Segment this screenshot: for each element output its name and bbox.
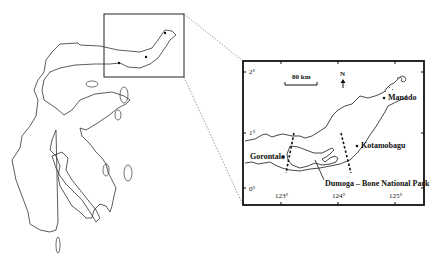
north-label: N <box>340 71 345 78</box>
connector-line <box>184 77 243 205</box>
sulawesi-outline <box>12 30 176 232</box>
town-dot-kotamobagu <box>356 145 359 148</box>
lat-tick-2: 2° <box>249 69 255 76</box>
lat-tick-1: 1° <box>249 130 255 137</box>
label-national-park: Dumoga – Bone National Park <box>325 180 429 188</box>
label-gorontalo: Gorontalo <box>250 153 285 161</box>
lat-tick-0: 0° <box>249 186 255 193</box>
overview-inset-box <box>104 14 184 77</box>
island <box>124 165 132 181</box>
connector-line <box>184 14 243 61</box>
sulawesi-sw-arm <box>52 152 100 222</box>
town-dot-manado <box>383 97 386 100</box>
town-dot <box>164 32 166 34</box>
town-dot <box>118 62 120 64</box>
island <box>86 81 98 87</box>
lon-tick-124: 124° <box>332 193 345 200</box>
lon-tick-123: 123° <box>275 193 288 200</box>
lon-tick-125: 125° <box>389 193 402 200</box>
scale-bar-label: 80 km <box>292 74 310 81</box>
island <box>103 164 109 176</box>
label-manado: Manado <box>388 94 416 102</box>
island <box>115 110 121 120</box>
island <box>56 237 60 253</box>
map-canvas <box>0 0 434 262</box>
town-dot <box>145 56 147 58</box>
label-kotamobagu: Kotamobagu <box>361 142 405 150</box>
